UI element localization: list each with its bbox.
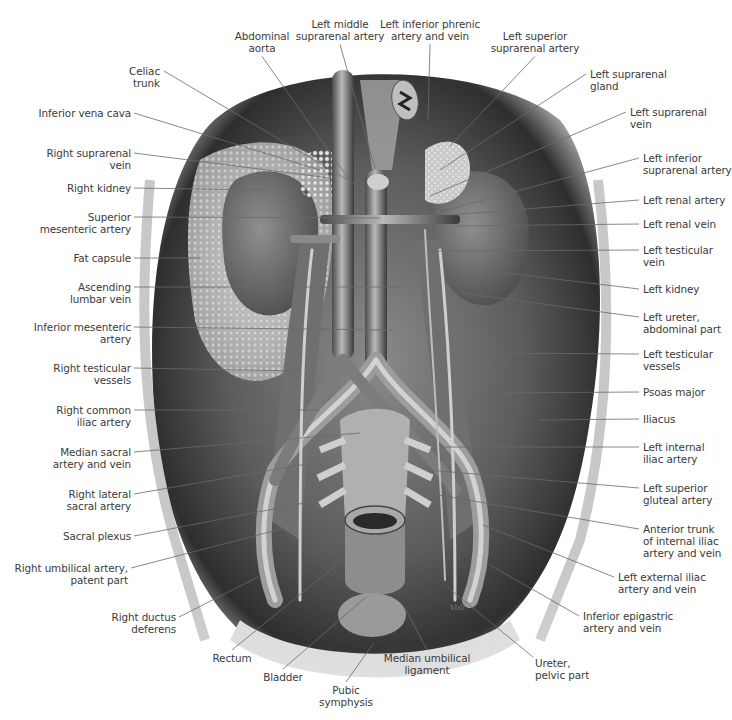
label-anterior-trunk-of-internal-iliac-artery-and-vein: Anterior trunk of internal iliac artery … bbox=[643, 523, 721, 560]
label-psoas-major: Psoas major bbox=[643, 386, 705, 398]
label-inferior-epigastric-artery-and-vein: Inferior epigastric artery and vein bbox=[583, 610, 673, 634]
label-left-internal-iliac-artery: Left internal iliac artery bbox=[643, 441, 704, 465]
label-median-umbilical-ligament: Median umbilical ligament bbox=[372, 652, 482, 676]
label-superior-mesenteric-artery: Superior mesenteric artery bbox=[40, 211, 131, 235]
label-right-ductus-deferens: Right ductus deferens bbox=[112, 611, 176, 635]
label-inferior-vena-cava: Inferior vena cava bbox=[39, 107, 131, 119]
label-left-suprarenal-vein: Left suprarenal vein bbox=[630, 106, 707, 130]
anatomy-figure: Voll Inferior vena cavaRight suprarenal … bbox=[0, 0, 732, 720]
label-iliacus: Iliacus bbox=[643, 413, 675, 425]
label-right-kidney: Right kidney bbox=[67, 182, 131, 194]
label-left-renal-artery: Left renal artery bbox=[643, 194, 725, 206]
label-sacral-plexus: Sacral plexus bbox=[63, 530, 131, 542]
label-right-umbilical-artery-patent-part: Right umbilical artery, patent part bbox=[15, 562, 128, 586]
label-left-inferior-suprarenal-artery: Left inferior suprarenal artery bbox=[643, 152, 732, 176]
label-ascending-lumbar-vein: Ascending lumbar vein bbox=[70, 281, 131, 305]
label-rectum: Rectum bbox=[177, 652, 287, 664]
label-median-sacral-artery-and-vein: Median sacral artery and vein bbox=[53, 446, 131, 470]
label-left-ureter-abdominal-part: Left ureter, abdominal part bbox=[643, 311, 721, 335]
label-inferior-mesenteric-artery: Inferior mesenteric artery bbox=[34, 321, 131, 345]
label-ureter-pelvic-part: Ureter, pelvic part bbox=[535, 657, 589, 681]
artist-signature: Voll bbox=[450, 603, 465, 612]
label-left-kidney: Left kidney bbox=[643, 283, 699, 295]
label-left-suprarenal-gland: Left suprarenal gland bbox=[590, 68, 667, 92]
label-right-suprarenal-vein: Right suprarenal vein bbox=[46, 147, 131, 171]
label-pubic-symphysis: Pubic symphysis bbox=[291, 684, 401, 708]
label-left-external-iliac-artery-and-vein: Left external iliac artery and vein bbox=[618, 571, 706, 595]
label-bladder: Bladder bbox=[228, 671, 338, 683]
label-right-lateral-sacral-artery: Right lateral sacral artery bbox=[66, 488, 131, 512]
label-left-inferior-phrenic-artery-and-vein: Left inferior phrenic artery and vein bbox=[375, 18, 485, 42]
label-left-renal-vein: Left renal vein bbox=[643, 218, 716, 230]
label-right-testicular-vessels: Right testicular vessels bbox=[53, 362, 131, 386]
label-left-testicular-vessels: Left testicular vessels bbox=[643, 348, 713, 372]
label-celiac-trunk: Celiac trunk bbox=[50, 65, 160, 89]
label-left-superior-gluteal-artery: Left superior gluteal artery bbox=[643, 482, 712, 506]
label-right-common-iliac-artery: Right common iliac artery bbox=[56, 404, 131, 428]
label-left-testicular-vein: Left testicular vein bbox=[643, 244, 713, 268]
label-fat-capsule: Fat capsule bbox=[73, 252, 131, 264]
label-left-superior-suprarenal-artery: Left superior suprarenal artery bbox=[480, 30, 590, 54]
